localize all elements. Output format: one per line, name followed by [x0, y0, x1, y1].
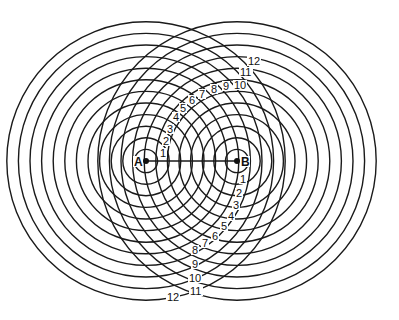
wave-number-label: 6 [189, 94, 195, 106]
source-a-dot [143, 158, 149, 164]
wave-number-label: 9 [223, 80, 229, 92]
wave-number-label: 10 [189, 272, 201, 284]
wave-number-label: 1 [160, 147, 166, 159]
wave-number-label: 9 [192, 258, 198, 270]
wave-number-label: 12 [248, 55, 260, 67]
wave-number-label: 8 [192, 244, 198, 256]
wave-number-label: 2 [236, 187, 242, 199]
wave-number-label: 11 [190, 285, 201, 297]
upper-wave-numbers: 123456789101112 [160, 55, 260, 159]
wave-number-label: 4 [173, 111, 179, 123]
interference-diagram: A B 123456789101112 123456789101112 [0, 0, 399, 320]
source-b-dot [234, 158, 240, 164]
wave-number-label: 3 [167, 123, 173, 135]
wave-number-label: 4 [228, 210, 234, 222]
lower-wave-numbers: 123456789101112 [167, 173, 246, 303]
wave-number-label: 1 [240, 173, 246, 185]
wave-number-label: 10 [234, 79, 246, 91]
wave-number-label: 12 [167, 291, 179, 303]
wave-number-label: 8 [211, 83, 217, 95]
wave-number-label: 6 [212, 230, 218, 242]
wave-number-label: 5 [180, 102, 186, 114]
source-b-label: B [241, 155, 250, 169]
wave-number-label: 5 [221, 220, 227, 232]
wave-number-label: 2 [163, 135, 169, 147]
wave-number-label: 11 [240, 66, 251, 78]
wave-number-label: 7 [202, 237, 208, 249]
source-a-label: A [134, 155, 143, 169]
wave-number-label: 7 [199, 88, 205, 100]
